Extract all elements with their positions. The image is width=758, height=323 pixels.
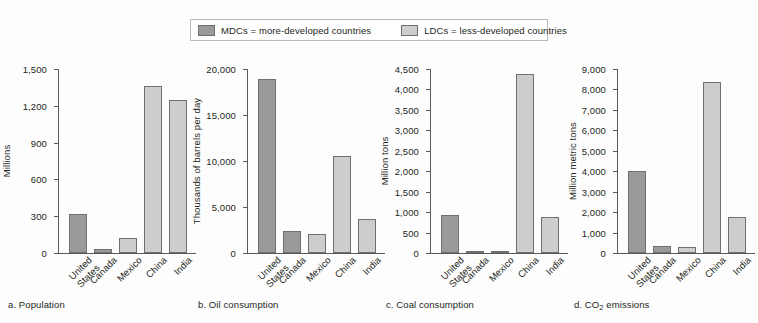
- axis-area: 05,00010,00015,00020,000: [247, 69, 380, 253]
- y-axis-tick-label: 2,000: [395, 166, 419, 177]
- bars-layer: [431, 69, 571, 253]
- bar-d-united-states: [628, 171, 646, 253]
- y-axis-tick-label: 5,000: [212, 202, 236, 213]
- chart-panel-a: Millions03006009001,2001,500UnitedStates…: [0, 55, 190, 323]
- bar-a-china: [144, 86, 162, 253]
- x-axis-line: [247, 253, 385, 254]
- y-axis-tick: 0: [613, 253, 618, 254]
- y-axis-tick: 0: [54, 253, 59, 254]
- chart-panel-b: Thousands of barrels per day05,00010,000…: [190, 55, 380, 323]
- y-axis-tick-label: 6,000: [582, 125, 606, 136]
- y-axis-tick-label: 600: [31, 174, 47, 185]
- legend-swatch-ldc-icon: [401, 25, 418, 36]
- x-axis-line: [58, 253, 196, 254]
- y-axis-tick-label: 1,500: [23, 64, 47, 75]
- legend: MDCs = more-developed countries LDCs = l…: [190, 19, 548, 41]
- bar-a-canada: [94, 249, 112, 253]
- y-axis-tick-label: 20,000: [206, 64, 236, 75]
- y-axis-tick-label: 300: [31, 211, 47, 222]
- bar-a-mexico: [119, 238, 137, 253]
- y-axis-tick-label: 2,500: [395, 145, 419, 156]
- chart-panel-d: Million metric tons01,0002,0003,0004,000…: [566, 55, 756, 323]
- panel-caption-a: a. Population: [8, 299, 65, 310]
- x-axis-label-mexico: Mexico: [674, 255, 703, 284]
- x-axis-label-china: China: [144, 255, 169, 280]
- x-axis-label-mexico: Mexico: [304, 255, 333, 284]
- y-axis-tick: 0: [426, 253, 431, 254]
- bars-layer: [618, 69, 758, 253]
- y-axis-tick-label: 1,200: [23, 100, 47, 111]
- bar-b-india: [358, 219, 376, 253]
- y-axis-tick-label: 500: [403, 227, 419, 238]
- legend-label-mdc: MDCs = more-developed countries: [221, 25, 371, 36]
- bar-b-canada: [283, 231, 301, 253]
- bar-c-mexico: [491, 251, 509, 253]
- bar-d-mexico: [678, 247, 696, 253]
- y-axis-tick-label: 3,000: [582, 186, 606, 197]
- plot-area-c: Million tons05001,0001,5002,0002,5003,00…: [378, 55, 568, 260]
- bars-layer: [248, 69, 388, 253]
- y-axis-title: Million tons: [379, 137, 390, 186]
- y-axis-title: Thousands of barrels per day: [191, 98, 202, 224]
- y-axis-tick-label: 1,500: [395, 186, 419, 197]
- y-axis-tick-label: 0: [42, 248, 47, 259]
- y-axis-title: Million metric tons: [567, 122, 578, 200]
- axis-area: 03006009001,2001,500: [58, 69, 190, 253]
- bars-layer: [59, 69, 199, 253]
- y-axis-tick-label: 8,000: [582, 84, 606, 95]
- panel-caption-c: c. Coal consumption: [386, 299, 474, 310]
- y-axis-title: Millions: [1, 145, 12, 177]
- x-axis-label-china: China: [703, 255, 728, 280]
- y-axis-tick-label: 4,000: [395, 84, 419, 95]
- plot-area-b: Thousands of barrels per day05,00010,000…: [190, 55, 380, 260]
- panel-caption-d: d. CO2 emissions: [574, 299, 649, 310]
- y-axis-tick-label: 1,000: [395, 207, 419, 218]
- y-axis-tick-label: 2,000: [582, 207, 606, 218]
- legend-swatch-mdc-icon: [198, 25, 215, 36]
- x-axis-label-china: China: [333, 255, 358, 280]
- bar-d-india: [728, 217, 746, 253]
- legend-entry-ldc: LDCs = less-developed countries: [401, 25, 567, 36]
- bar-c-united-states: [441, 215, 459, 253]
- y-axis-tick-label: 4,500: [395, 64, 419, 75]
- x-axis-label-india: India: [731, 255, 753, 277]
- bar-b-china: [333, 156, 351, 253]
- bar-d-canada: [653, 246, 671, 253]
- y-axis-tick-label: 5,000: [582, 145, 606, 156]
- y-axis-tick-label: 4,000: [582, 166, 606, 177]
- x-axis-label-china: China: [516, 255, 541, 280]
- y-axis-tick-label: 0: [601, 248, 606, 259]
- y-axis-tick-label: 1,000: [582, 227, 606, 238]
- x-axis-label-mexico: Mexico: [115, 255, 144, 284]
- bar-b-united-states: [258, 79, 276, 253]
- panel-caption-b: b. Oil consumption: [198, 299, 278, 310]
- y-axis-tick-label: 900: [31, 137, 47, 148]
- legend-label-ldc: LDCs = less-developed countries: [424, 25, 567, 36]
- x-axis-line: [617, 253, 755, 254]
- bar-a-india: [169, 100, 187, 253]
- y-axis-tick-label: 15,000: [206, 110, 236, 121]
- bar-a-united-states: [69, 214, 87, 253]
- y-axis-tick-label: 0: [414, 248, 419, 259]
- y-axis-tick-label: 7,000: [582, 104, 606, 115]
- x-axis-line: [430, 253, 568, 254]
- y-axis-tick-label: 9,000: [582, 64, 606, 75]
- chart-panel-c: Million tons05001,0001,5002,0002,5003,00…: [378, 55, 568, 323]
- axis-area: 05001,0001,5002,0002,5003,0003,5004,0004…: [430, 69, 568, 253]
- bar-c-canada: [466, 251, 484, 253]
- y-axis-tick-label: 3,500: [395, 104, 419, 115]
- axis-area: 01,0002,0003,0004,0005,0006,0007,0008,00…: [617, 69, 756, 253]
- bar-b-mexico: [308, 234, 326, 253]
- legend-entry-mdc: MDCs = more-developed countries: [198, 25, 371, 36]
- bar-c-india: [541, 217, 559, 253]
- x-axis-label-india: India: [544, 255, 566, 277]
- y-axis-tick-label: 3,000: [395, 125, 419, 136]
- y-axis-tick-label: 10,000: [206, 156, 236, 167]
- bar-c-china: [516, 74, 534, 253]
- y-axis-tick-label: 0: [231, 248, 236, 259]
- plot-area-d: Million metric tons01,0002,0003,0004,000…: [566, 55, 756, 260]
- x-axis-label-mexico: Mexico: [487, 255, 516, 284]
- plot-area-a: Millions03006009001,2001,500UnitedStates…: [0, 55, 190, 260]
- bar-d-china: [703, 82, 721, 253]
- y-axis-tick: 0: [243, 253, 248, 254]
